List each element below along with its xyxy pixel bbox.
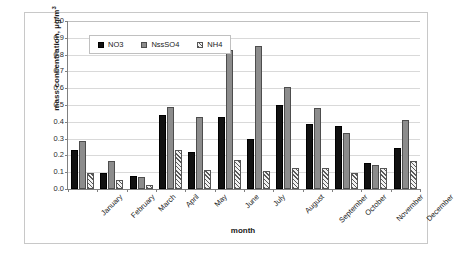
bar-no3-october: [335, 126, 342, 189]
bar-nh4-december: [410, 161, 417, 189]
x-axis-tick-label: June: [243, 193, 260, 210]
x-axis-tick-label: July: [272, 193, 287, 208]
x-axis-tick-label: December: [425, 193, 455, 223]
bar-nssso4-march: [138, 177, 145, 189]
x-axis-tick-label: April: [184, 193, 200, 209]
x-axis-tick-label: January: [100, 193, 124, 217]
chart-legend: NO3 NssSO4 NH4: [89, 35, 231, 54]
x-axis-title: month: [67, 226, 419, 235]
x-axis-tick-mark: [303, 189, 304, 192]
x-axis-tick-mark: [156, 189, 157, 192]
bar-nssso4-february: [108, 161, 115, 189]
bar-nh4-april: [175, 150, 182, 189]
bar-nh4-may: [204, 170, 211, 189]
bar-no3-november: [364, 163, 371, 189]
y-axis-tick-label: 0.6: [54, 84, 64, 92]
x-axis-tick-mark: [68, 189, 69, 192]
bar-nh4-july: [263, 171, 270, 189]
bar-nh4-june: [234, 160, 241, 189]
legend-swatch-no3-icon: [98, 42, 104, 48]
bar-no3-july: [247, 139, 254, 189]
bar-nssso4-april: [167, 107, 174, 189]
y-axis-tick-label: 0.8: [54, 51, 64, 59]
x-axis-tick-mark: [244, 189, 245, 192]
bar-nssso4-december: [402, 120, 409, 189]
bar-nssso4-july: [255, 46, 262, 189]
y-axis-title-exponent: 3: [51, 6, 57, 9]
x-axis-tick-label: August: [304, 193, 326, 215]
bar-nssso4-june: [226, 50, 233, 189]
x-axis-tick-label: May: [213, 193, 228, 208]
x-axis-tick-mark: [273, 189, 274, 192]
x-axis-tick-mark: [332, 189, 333, 192]
y-axis-tick-label: 0.3: [54, 135, 64, 143]
bar-group: [244, 21, 273, 189]
bar-group: [273, 21, 302, 189]
bar-group: [391, 21, 420, 189]
x-axis-tick-mark: [185, 189, 186, 192]
bar-nh4-august: [292, 168, 299, 189]
legend-swatch-nh4-icon: [197, 42, 203, 48]
y-axis-tick-label: 0.9: [54, 34, 64, 42]
bar-no3-april: [159, 115, 166, 189]
bar-nh4-january: [87, 173, 94, 189]
y-axis-tick-label: 0.7: [54, 68, 64, 76]
chart-frame: mass concentration, µg/m3 1.00.90.80.70.…: [24, 12, 428, 244]
bar-no3-august: [276, 105, 283, 189]
legend-label-no3: NO3: [108, 40, 123, 49]
bar-nssso4-september: [314, 108, 321, 189]
x-axis-tick-label: November: [395, 193, 425, 223]
legend-item-no3: NO3: [98, 40, 123, 49]
bar-no3-june: [218, 117, 225, 189]
y-axis-tick-label: 0.0: [54, 185, 64, 193]
bar-nh4-september: [322, 168, 329, 189]
legend-label-nh4: NH4: [207, 40, 222, 49]
legend-label-nsso4: NssSO4: [151, 40, 179, 49]
y-axis-tick-label: 1.0: [54, 17, 64, 25]
x-axis-tick-label: February: [130, 193, 157, 220]
bar-no3-march: [130, 176, 137, 189]
bar-nssso4-january: [79, 141, 86, 189]
legend-swatch-nsso4-icon: [141, 42, 147, 48]
bar-nh4-october: [351, 173, 358, 189]
bar-no3-may: [188, 152, 195, 189]
bar-no3-february: [100, 173, 107, 189]
x-axis-tick-label: March: [157, 193, 177, 213]
bar-group: [332, 21, 361, 189]
bar-nh4-february: [116, 180, 123, 189]
bar-nh4-november: [380, 168, 387, 189]
bar-nssso4-november: [372, 165, 379, 189]
y-axis-tick-label: 0.1: [54, 168, 64, 176]
bar-no3-december: [394, 148, 401, 189]
legend-item-nsso4: NssSO4: [141, 40, 179, 49]
bar-nssso4-may: [196, 117, 203, 189]
x-axis-tick-mark: [97, 189, 98, 192]
x-axis-tick-mark: [420, 189, 421, 192]
bar-no3-september: [306, 124, 313, 189]
x-axis-tick-mark: [391, 189, 392, 192]
bar-no3-january: [71, 150, 78, 189]
bar-nh4-march: [146, 185, 153, 189]
x-axis-tick-mark: [127, 189, 128, 192]
y-axis-tick-label: 0.4: [54, 118, 64, 126]
legend-item-nh4: NH4: [197, 40, 222, 49]
bar-group: [361, 21, 390, 189]
x-axis-tick-mark: [215, 189, 216, 192]
bar-nssso4-october: [343, 133, 350, 189]
y-axis-tick-label: 0.5: [54, 101, 64, 109]
y-axis-tick-label: 0.2: [54, 152, 64, 160]
bar-nssso4-august: [284, 87, 291, 189]
bar-group: [303, 21, 332, 189]
